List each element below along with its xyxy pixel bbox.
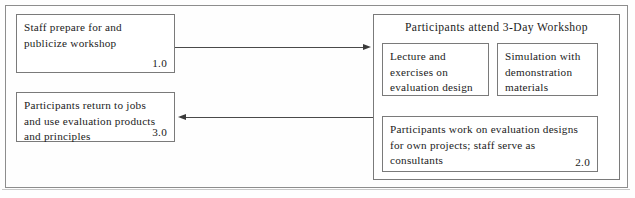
process-box-designs-text: Participants work on evaluation designs … xyxy=(390,122,592,169)
process-box-prepare-text: Staff prepare for and publicize workshop xyxy=(24,20,169,51)
scanned-page: Staff prepare for and publicize workshop… xyxy=(0,0,635,198)
process-box-return-text: Participants return to jobs and use eval… xyxy=(24,98,169,145)
process-box-lecture: Lecture and exercises on evaluation desi… xyxy=(382,43,489,96)
process-box-simulation: Simulation with demonstration materials xyxy=(497,43,598,96)
process-box-designs: Participants work on evaluation designs … xyxy=(382,116,598,172)
process-box-return: Participants return to jobs and use eval… xyxy=(16,92,175,142)
process-box-designs-number: 2.0 xyxy=(575,156,590,168)
process-box-prepare-number: 1.0 xyxy=(152,57,167,69)
page-scan-rule xyxy=(2,189,630,190)
connector-workshop-to-return-arrowhead-icon xyxy=(178,114,186,120)
connector-workshop-to-return-line xyxy=(186,117,373,118)
process-box-prepare: Staff prepare for and publicize workshop… xyxy=(16,14,175,73)
workshop-panel-title: Participants attend 3-Day Workshop xyxy=(374,21,619,34)
process-box-return-number: 3.0 xyxy=(152,126,167,138)
process-box-lecture-text: Lecture and exercises on evaluation desi… xyxy=(390,49,483,96)
process-box-simulation-text: Simulation with demonstration materials xyxy=(505,49,592,96)
connector-prepare-to-workshop-line xyxy=(175,47,363,48)
connector-prepare-to-workshop-arrowhead-icon xyxy=(363,44,371,50)
